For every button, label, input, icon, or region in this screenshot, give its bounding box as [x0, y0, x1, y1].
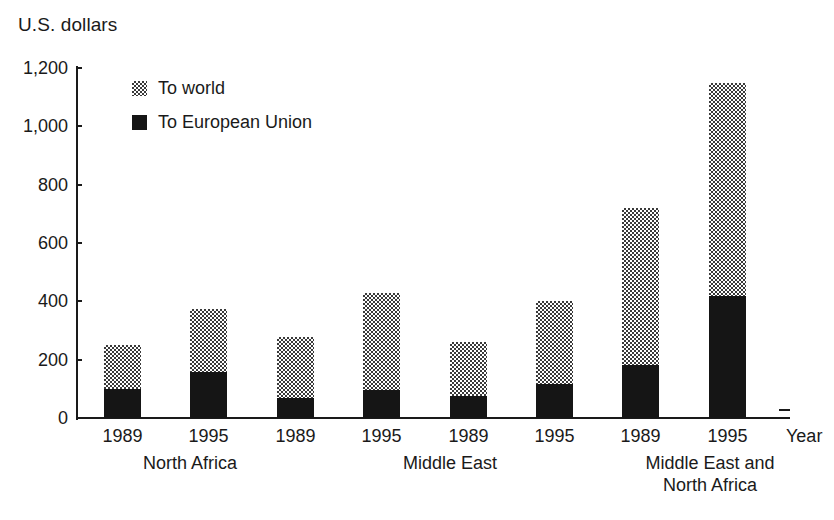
x-axis-group-label-line: North Africa — [143, 452, 237, 474]
y-axis-tick-mark — [76, 242, 82, 244]
x-axis-year-label: 1989 — [620, 426, 660, 447]
x-axis-group-label: Middle East — [403, 452, 497, 474]
y-axis-tick-mark — [76, 359, 82, 361]
y-axis-tick-mark — [76, 67, 82, 69]
x-axis-year-label: 1995 — [361, 426, 401, 447]
x-axis-group-label: North Africa — [143, 452, 237, 474]
y-axis-tick-mark — [76, 125, 82, 127]
x-axis-group-label-line: Middle East and — [645, 452, 774, 474]
x-axis-group-label-line: North Africa — [645, 474, 774, 496]
x-axis-labels: 19891995198919951989199519891995North Af… — [0, 0, 834, 520]
bar-chart: U.S. dollars 02004006008001,0001,200 To … — [0, 0, 834, 520]
x-axis-year-label: 1989 — [275, 426, 315, 447]
y-axis-tick-mark — [76, 300, 82, 302]
x-axis-group-label: Middle East andNorth Africa — [645, 452, 774, 496]
x-axis-title: Year — [786, 426, 822, 447]
x-axis-group-label-line: Middle East — [403, 452, 497, 474]
x-axis-year-label: 1989 — [448, 426, 488, 447]
x-axis-year-label: 1995 — [534, 426, 574, 447]
y-axis-tick-mark — [76, 184, 82, 186]
x-axis-year-label: 1995 — [707, 426, 747, 447]
x-axis-year-label: 1995 — [188, 426, 228, 447]
x-axis-year-label: 1989 — [102, 426, 142, 447]
